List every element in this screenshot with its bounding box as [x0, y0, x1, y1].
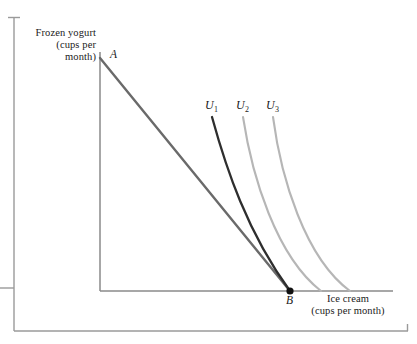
- outer-frame: [0, 17, 408, 331]
- curve-label-u2-text: U: [236, 98, 245, 112]
- curve-label-u2: U2: [236, 99, 249, 112]
- curve-label-u2-subscript: 2: [245, 105, 249, 114]
- indifference-curve-u3: [273, 117, 350, 291]
- point-b-label: B: [286, 294, 293, 307]
- point-a-label: A: [110, 48, 117, 61]
- curve-label-u1-subscript: 1: [214, 105, 218, 114]
- indifference-curve-u2: [243, 117, 321, 291]
- budget-constraint-line: [100, 58, 290, 291]
- curve-label-u1: U1: [205, 99, 218, 112]
- indifference-curve-figure: Frozen yogurt (cups per month) Ice cream…: [0, 0, 417, 344]
- indifference-curve-u1: [212, 117, 290, 291]
- curve-label-u3: U3: [266, 99, 279, 112]
- x-axis-label: Ice cream (cups per month): [286, 293, 410, 317]
- y-axis-label: Frozen yogurt (cups per month): [18, 27, 96, 62]
- curves-group: [100, 58, 350, 291]
- curve-label-u3-text: U: [266, 98, 275, 112]
- curve-label-u3-subscript: 3: [275, 105, 279, 114]
- curve-label-u1-text: U: [205, 98, 214, 112]
- plot-axes: [100, 52, 393, 291]
